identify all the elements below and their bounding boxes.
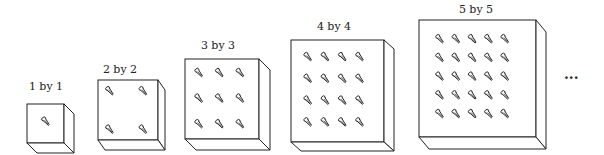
label-5-by-5: 5 by 5 (459, 3, 493, 16)
continuation-ellipsis: ... (564, 66, 579, 82)
box-bottom-face (185, 139, 270, 150)
box-side-face (158, 80, 165, 150)
peg-box-5x5 (419, 20, 546, 149)
box-bottom-face (98, 140, 165, 150)
label-4-by-4: 4 by 4 (317, 20, 351, 33)
label-3-by-3: 3 by 3 (201, 39, 235, 52)
figure-canvas (0, 0, 604, 155)
box-bottom-face (419, 137, 546, 149)
box-side-face (384, 40, 394, 151)
label-2-by-2: 2 by 2 (103, 63, 137, 76)
peg-box-3x3 (185, 59, 270, 150)
box-bottom-face (291, 142, 394, 151)
peg-box-1x1 (27, 104, 74, 153)
box-side-face (259, 59, 270, 150)
box-side-face (536, 20, 546, 149)
peg-box-2x2 (98, 80, 165, 150)
label-1-by-1: 1 by 1 (29, 80, 63, 93)
peg-box-4x4 (291, 40, 394, 151)
box-front-face (27, 104, 64, 143)
